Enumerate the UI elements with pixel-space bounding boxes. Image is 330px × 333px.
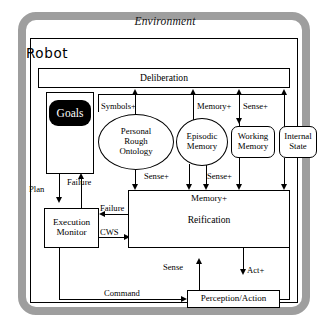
edge-sense-plus-top-down-arrowhead [236,118,242,124]
node-reification[interactable]: Memory+ Reification [128,190,290,248]
edge-internal-state-up-line [284,94,285,128]
node-episodic-memory[interactable]: Episodic Memory [176,118,228,166]
edge-command-line-h [59,299,182,300]
edge-memory-plus-arrowhead [190,89,196,95]
edge-label-sense-plus-top: Sense+ [243,101,268,111]
environment-label: Environment [0,15,330,27]
node-personal-rough-ontology[interactable]: Personal Rough Ontology [98,114,174,170]
edge-failure-reification-line [104,214,130,215]
node-episodic-memory-label: Episodic Memory [187,132,218,152]
edge-working-memory-to-reification-line [239,158,240,185]
edge-act-plus-line [243,248,244,270]
edge-symbols-plus-arrowhead [132,89,138,95]
edge-label-memory-plus-top: Memory+ [197,101,231,111]
node-goals[interactable]: Goals [49,100,91,126]
edge-sense-plus-top-arrowhead [236,89,242,95]
node-perception-action[interactable]: Perception/Action [187,290,280,308]
edge-sense-line [199,263,200,291]
edge-act-plus-arrowhead [240,269,246,275]
edge-label-sense-plus-right: Sense+ [207,171,232,181]
node-goals-label: Goals [57,107,84,119]
node-working-memory[interactable]: Working Memory [231,126,275,158]
node-execution-monitor-label: Execution Monitor [53,218,90,238]
node-reification-header: Memory+ [191,194,227,204]
node-working-memory-label: Working Memory [238,132,269,152]
edge-label-plan: Plan [29,184,44,194]
edge-internal-state-up-arrowhead [281,89,287,95]
edge-label-failure-reification: Failure [100,203,124,213]
edge-bus-left-drop [98,94,99,112]
node-reification-label: Reification [188,215,231,225]
edge-label-sense-plus-left: Sense+ [144,171,169,181]
edge-command-line-v [59,248,60,299]
edge-memory-plus-line [193,94,194,120]
edge-label-cws: CWS [100,227,119,237]
edge-plan-line-v [59,174,60,198]
edge-label-failure-goals: Failure [67,177,91,187]
edge-internal-state-to-reification-line [284,158,285,185]
node-deliberation-label: Deliberation [140,73,188,83]
edge-episodic-to-reification-line-a [189,164,190,185]
edge-label-command: Command [104,288,140,298]
edge-cws-line [99,237,125,238]
edge-pro-to-reification-line [135,170,136,185]
edge-plan-arrowhead [56,197,62,203]
edge-sense-arrowhead [196,258,202,264]
diagram-canvas: Environment Robot [0,0,330,333]
node-personal-rough-ontology-label: Personal Rough Ontology [119,127,152,157]
node-deliberation[interactable]: Deliberation [38,68,290,88]
node-perception-action-label: Perception/Action [201,294,266,304]
edge-label-act-plus: Act+ [247,265,264,275]
node-internal-state[interactable]: Internal State [279,126,317,158]
edge-return-line-v [289,248,290,300]
edge-label-symbols-plus: Symbols+ [101,101,136,111]
edge-label-sense: Sense [163,262,183,272]
robot-label: Robot [26,45,68,61]
node-internal-state-label: Internal State [284,132,311,152]
node-execution-monitor[interactable]: Execution Monitor [44,208,99,248]
